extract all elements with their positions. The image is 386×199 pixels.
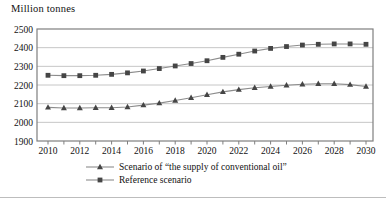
y-tick-label: 2400 [14,43,33,53]
x-tick-label: 2026 [293,146,312,156]
x-tick-label: 2010 [39,146,58,156]
square-marker [62,73,67,78]
x-tick-label: 2018 [166,146,185,156]
x-tick-label: 2020 [198,146,217,156]
y-tick-label: 2100 [14,99,33,109]
square-marker [252,49,257,54]
square-marker-icon [86,175,114,185]
square-marker [157,66,162,71]
square-marker [77,73,82,78]
y-tick-label: 2500 [14,25,33,35]
line-chart-figure: Million tonnes 1900200021002200230024002… [0,0,386,199]
square-marker [332,42,337,47]
x-tick-label: 2016 [134,146,153,156]
x-tick-label: 2014 [102,146,121,156]
y-tick-label: 2000 [14,118,33,128]
square-marker [348,42,353,47]
legend-label: Scenario of “the supply of conventional … [119,162,287,172]
square-marker [300,43,305,48]
square-marker [141,69,146,74]
square-marker [284,44,289,49]
square-marker [189,61,194,66]
square-marker [46,73,51,78]
y-tick-label: 2300 [14,62,33,72]
triangle-marker [45,104,51,109]
x-tick-label: 2022 [229,146,248,156]
square-marker [93,73,98,78]
chart-legend: Scenario of “the supply of conventional … [86,160,287,186]
square-marker [205,58,210,63]
x-tick-label: 2028 [325,146,344,156]
square-marker [125,70,130,75]
x-tick-label: 2012 [70,146,89,156]
legend-item: Reference scenario [86,173,287,186]
chart-plot-area: 1900200021002200230024002500201020122014… [0,0,386,160]
x-tick-label: 2024 [261,146,280,156]
square-marker [236,52,241,57]
y-tick-label: 1900 [14,137,33,147]
triangle-marker-icon [86,162,114,172]
legend-item: Scenario of “the supply of conventional … [86,160,287,173]
square-marker [364,42,369,47]
square-marker [173,64,178,69]
figure-bottom-rule [0,197,386,198]
square-marker [221,55,226,60]
square-marker [109,72,114,77]
legend-label: Reference scenario [119,175,192,185]
x-tick-label: 2030 [357,146,376,156]
y-tick-label: 2200 [14,81,33,91]
square-marker [316,42,321,47]
square-marker [268,46,273,51]
